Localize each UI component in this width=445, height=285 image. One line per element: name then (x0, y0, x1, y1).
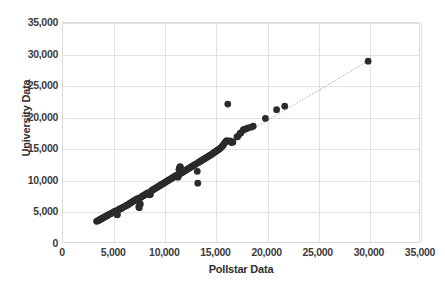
data-point (137, 201, 144, 208)
gridline-vertical (421, 23, 422, 242)
data-point (262, 115, 269, 122)
data-point (281, 103, 288, 110)
data-point (224, 101, 231, 108)
x-tick-label: 0 (59, 246, 65, 258)
y-tick-label: 0 (2, 237, 58, 249)
x-tick-label: 20,000 (251, 246, 281, 258)
data-point (273, 106, 280, 113)
data-point (365, 58, 372, 65)
y-tick-label: 5,000 (2, 205, 58, 217)
plot-area (62, 22, 420, 243)
x-tick-label: 5,000 (101, 246, 126, 258)
scatter-chart: 05,00010,00015,00020,00025,00030,00035,0… (0, 0, 445, 285)
y-axis-title: University Data (20, 48, 32, 188)
x-axis-title: Pollstar Data (62, 263, 420, 275)
data-points-layer (63, 23, 419, 242)
x-tick-label: 35,000 (405, 246, 435, 258)
x-axis-ticks: 05,00010,00015,00020,00025,00030,00035,0… (62, 246, 420, 262)
data-point (250, 123, 257, 130)
data-point (229, 139, 236, 146)
data-point (194, 168, 201, 175)
data-point (194, 180, 201, 187)
x-tick-label: 15,000 (200, 246, 230, 258)
x-tick-label: 25,000 (303, 246, 333, 258)
y-tick-label: 35,000 (2, 16, 58, 28)
x-tick-label: 10,000 (149, 246, 179, 258)
x-tick-label: 30,000 (354, 246, 384, 258)
